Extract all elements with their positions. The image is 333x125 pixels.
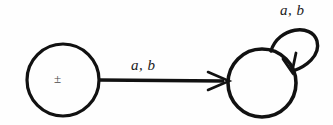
right-state-circle[interactable]: [228, 49, 296, 117]
transition-edge-line[interactable]: [99, 80, 224, 81]
start-state-circle[interactable]: [27, 44, 99, 116]
self-loop-label: a, b: [280, 2, 305, 19]
start-state-label: ±: [54, 71, 61, 87]
diagram-canvas: a, b a, b ±: [0, 0, 333, 125]
transition-label: a, b: [131, 57, 156, 74]
